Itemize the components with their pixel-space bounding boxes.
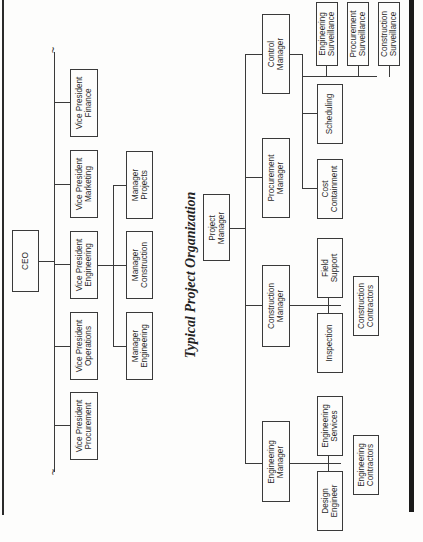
manager-connector xyxy=(113,346,126,347)
engineering-connector xyxy=(290,463,341,464)
pm-manager-connector xyxy=(245,54,262,55)
project-trunk-line xyxy=(245,54,246,463)
box-vp-marketing: Vice President Marketing xyxy=(70,150,98,218)
box-engineering-surveillance: Engineering Surveillance xyxy=(316,2,338,66)
box-engineering-manager: Engineering Manager xyxy=(262,421,290,502)
chart-title: Typical Project Organization xyxy=(183,192,199,359)
vp-connector xyxy=(54,425,70,426)
box-construction-contractors: Construction Contractors xyxy=(353,276,379,336)
box-vp-operations: Vice President Operations xyxy=(70,312,98,380)
construction-connector xyxy=(290,305,341,306)
box-field-support: Field Support xyxy=(317,238,343,298)
box-label: Vice President Operations xyxy=(75,320,93,373)
control-sub-connector xyxy=(302,188,317,189)
box-engineering-services: Engineering Services xyxy=(317,396,343,456)
box-label: Vice President Marketing xyxy=(75,158,93,211)
box-label: Procurement Surveillance xyxy=(349,11,367,58)
box-label: Inspection xyxy=(325,324,334,361)
chart-title-wrap: Typical Project Organization xyxy=(180,190,202,360)
box-procurement-manager: Procurement Manager xyxy=(262,138,290,218)
manager-connector xyxy=(113,265,126,266)
box-ceo: CEO xyxy=(12,230,39,292)
box-project-manager: Project Manager xyxy=(203,194,230,261)
box-inspection: Inspection xyxy=(317,313,343,373)
box-manager-engineering: Manager Engineering xyxy=(126,312,153,380)
box-label: Vice President Finance xyxy=(75,77,93,130)
box-label: Construction Manager xyxy=(267,283,285,329)
trunk-break-bottom-icon: ~ xyxy=(47,469,59,475)
left-margin-rule xyxy=(2,0,4,515)
box-label: Control Manager xyxy=(267,38,285,70)
box-scheduling: Scheduling xyxy=(317,84,343,144)
box-vp-procurement: Vice President Procurement xyxy=(70,392,98,460)
box-label: Manager Engineering xyxy=(130,324,148,368)
box-vp-finance: Vice President Finance xyxy=(70,69,98,137)
pm-manager-connector xyxy=(245,463,262,464)
pm-connector xyxy=(230,228,245,229)
surveillance-drop xyxy=(389,66,390,77)
pm-manager-connector xyxy=(245,177,262,178)
box-manager-projects: Manager Projects xyxy=(126,151,153,219)
control-sub-connector xyxy=(302,113,317,114)
box-label: Project Manager xyxy=(207,211,225,243)
vp-connector xyxy=(54,346,70,347)
vp-eng-connector xyxy=(98,265,113,266)
box-construction-manager: Construction Manager xyxy=(262,265,290,347)
corporate-trunk-line xyxy=(54,52,55,472)
vp-connector xyxy=(54,102,70,103)
box-label: Construction Contractors xyxy=(357,283,375,329)
pm-manager-connector xyxy=(245,305,262,306)
box-vp-engineering: Vice President Engineering xyxy=(70,231,98,299)
box-cost-containment: Cost Containment xyxy=(317,159,343,219)
manager-connector xyxy=(113,185,126,186)
box-label: Engineering Manager xyxy=(267,440,285,484)
trunk-break-top-icon: ~ xyxy=(47,47,59,53)
control-sub-trunk xyxy=(302,54,303,189)
document-page: ~ ~ CEO Vice President Finance Vice Pres… xyxy=(0,0,423,542)
box-label: Manager Projects xyxy=(130,169,148,201)
ceo-connector xyxy=(38,261,54,262)
control-sub-connector xyxy=(302,76,377,77)
box-label: Vice President Procurement xyxy=(75,400,93,453)
box-label: CEO xyxy=(21,252,30,270)
right-thick-bar xyxy=(409,0,414,512)
vp-connector xyxy=(54,184,70,185)
box-label: Engineering Surveillance xyxy=(318,12,336,57)
box-design-engineer: Design Engineer xyxy=(317,471,343,531)
box-engineering-contractors: Engineering Contractors xyxy=(353,435,379,495)
box-label: Scheduling xyxy=(325,94,334,135)
box-label: Vice President Engineering xyxy=(75,239,93,292)
surveillance-drop xyxy=(326,66,327,77)
engineering-sub-connector xyxy=(328,456,329,471)
surveillance-drop xyxy=(358,66,359,77)
construction-sub-connector xyxy=(328,298,329,313)
box-control-manager: Control Manager xyxy=(262,14,290,94)
box-label: Field Support xyxy=(321,254,339,283)
box-label: Engineering Services xyxy=(321,404,339,448)
box-manager-construction: Manager Construction xyxy=(126,231,153,299)
box-construction-surveillance: Construction Surveillance xyxy=(378,2,400,66)
box-label: Cost Containment xyxy=(321,166,339,212)
box-label: Construction Surveillance xyxy=(380,11,398,57)
box-label: Design Engineer xyxy=(321,485,339,518)
box-procurement-surveillance: Procurement Surveillance xyxy=(347,2,369,66)
vp-connector xyxy=(54,264,70,265)
box-label: Manager Construction xyxy=(130,242,148,288)
box-label: Engineering Contractors xyxy=(357,443,375,487)
box-label: Procurement Manager xyxy=(267,155,285,202)
